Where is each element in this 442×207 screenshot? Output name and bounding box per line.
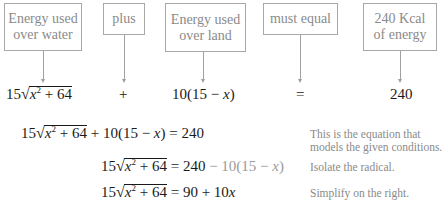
note-line: models the given conditions.	[310, 141, 442, 154]
note-line: Isolate the radical.	[310, 161, 395, 174]
arrow-down-icon	[43, 51, 44, 80]
rhs-faded: − 10(15 − x)	[209, 158, 284, 174]
equals-sign: =	[296, 86, 304, 102]
term-land: 10(15 − x)	[172, 85, 235, 103]
term-plus: +	[119, 85, 127, 103]
coefficient: 15	[101, 184, 116, 200]
coefficient: 15	[6, 86, 21, 102]
land-expr: 10(15 −	[172, 86, 223, 102]
step-2-note: Isolate the radical.	[310, 161, 395, 174]
label-box-240-kcal: 240 Kcal of energy	[363, 3, 437, 51]
variable: x	[272, 158, 279, 174]
radicand: x2 + 64	[124, 158, 167, 174]
arrow-down-icon	[400, 51, 401, 80]
radicand: x2 + 64	[124, 184, 167, 200]
radicand-rest: + 64	[136, 158, 167, 174]
paren: )	[279, 158, 284, 174]
label-text: over water	[13, 27, 72, 43]
arrow-down-icon	[300, 35, 301, 80]
term-equals: =	[296, 85, 304, 103]
coefficient: 15	[101, 158, 116, 174]
faded-expr: − 10(15 −	[209, 158, 272, 174]
term-water: 15√x2 + 64	[6, 85, 72, 103]
label-text: of energy	[374, 27, 427, 43]
radicand-rest: + 64	[136, 184, 167, 200]
equation-step-2: 15√x2 + 64 = 240 − 10(15 − x)	[101, 157, 284, 175]
arrow-down-icon	[124, 35, 125, 80]
term-total: 240	[390, 85, 413, 103]
equation-step-1: 15√x2 + 64 + 10(15 − x) = 240	[21, 124, 204, 142]
note-line: This is the equation that	[310, 128, 442, 141]
arrow-down-icon	[203, 52, 204, 80]
paren: )	[230, 86, 235, 102]
step-3-note: Simplify on the right.	[310, 187, 409, 200]
radicand: x2 + 64	[29, 86, 72, 102]
variable: x	[229, 184, 236, 200]
total-value: 240	[390, 86, 413, 102]
equation-step-3: 15√x2 + 64 = 90 + 10x	[101, 183, 236, 201]
label-box-energy-water: Energy used over water	[4, 3, 82, 51]
label-box-energy-land: Energy used over land	[165, 3, 246, 52]
radicand-rest: + 64	[56, 125, 87, 141]
label-text: 240 Kcal	[375, 11, 426, 27]
radicand-rest: + 64	[41, 86, 72, 102]
rhs: = 90 + 10	[167, 184, 229, 200]
label-text: over land	[179, 28, 231, 44]
step-1-note: This is the equation that models the giv…	[310, 128, 442, 154]
label-text: Energy used	[171, 12, 240, 28]
variable: x	[154, 125, 161, 141]
label-text: plus	[112, 11, 135, 27]
label-text: Energy used	[8, 11, 77, 27]
rhs: + 10(15 −	[87, 125, 154, 141]
plus-sign: +	[119, 86, 127, 102]
rhs-tail: ) = 240	[161, 125, 204, 141]
variable: x	[223, 86, 230, 102]
note-line: Simplify on the right.	[310, 187, 409, 200]
label-box-plus: plus	[103, 3, 145, 35]
label-text: must equal	[270, 11, 331, 27]
label-box-must-equal: must equal	[263, 3, 338, 35]
radicand: x2 + 64	[44, 125, 87, 141]
coefficient: 15	[21, 125, 36, 141]
rhs: = 240	[167, 158, 209, 174]
